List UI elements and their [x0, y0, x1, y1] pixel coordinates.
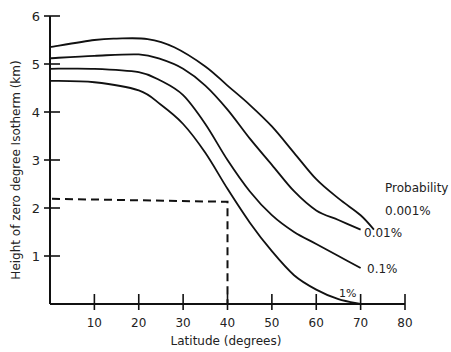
y-tick-label: 2 [32, 201, 40, 216]
y-tick-label: 4 [32, 105, 40, 120]
probability-curves [50, 38, 374, 304]
dashed-guide-line [52, 199, 228, 304]
legend-title: Probability [385, 181, 448, 195]
y-tick-label: 6 [32, 9, 40, 24]
x-tick-label: 20 [131, 316, 146, 330]
series-label-01: 0.1% [367, 262, 398, 276]
x-tick-label: 60 [309, 316, 324, 330]
y-axis-label: Height of zero degree Isotherm (km) [9, 60, 23, 279]
x-tick-label: 10 [87, 316, 102, 330]
series-label-1: 1% [339, 287, 356, 300]
x-tick-label: 50 [264, 316, 279, 330]
chart-canvas: 1234561020304050607080 Height of zero de… [0, 0, 451, 352]
curve-0.1% [50, 69, 361, 268]
x-tick-label: 40 [220, 316, 235, 330]
series-label-0001: 0.001% [385, 204, 431, 218]
y-tick-label: 3 [32, 153, 40, 168]
series-label-001: 0.01% [364, 226, 402, 240]
x-tick-label: 80 [397, 316, 412, 330]
dashed-guide [52, 199, 228, 304]
y-tick-label: 1 [32, 249, 40, 264]
curve-1% [50, 81, 361, 304]
curve-0.01% [50, 54, 361, 229]
x-tick-label: 70 [353, 316, 368, 330]
x-axis-label: Latitude (degrees) [171, 334, 282, 348]
x-tick-label: 30 [175, 316, 190, 330]
y-tick-label: 5 [32, 57, 40, 72]
axes: 1234561020304050607080 [32, 9, 413, 330]
